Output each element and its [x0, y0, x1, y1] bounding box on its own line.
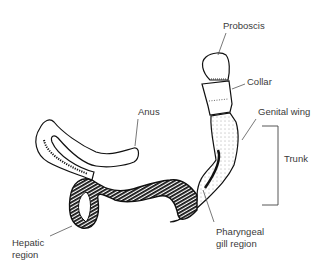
collar-shape — [202, 81, 232, 115]
label-collar: Collar — [247, 76, 272, 87]
anus-leader-line — [135, 119, 138, 146]
label-proboscis: Proboscis — [223, 20, 265, 31]
proboscis-leader-line — [218, 33, 226, 55]
genital-wing-leader-line — [242, 119, 256, 140]
proboscis-shape — [203, 53, 230, 80]
label-trunk: Trunk — [284, 153, 308, 164]
label-hepatic-region-2: region — [12, 249, 38, 260]
label-genital-wing: Genital wing — [258, 106, 310, 117]
label-anus: Anus — [138, 106, 160, 117]
label-pharyngeal-1: Pharyngeal — [216, 226, 264, 237]
acorn-worm-diagram — [0, 0, 335, 271]
hepatic-leader-line — [50, 226, 72, 236]
label-hepatic-region-1: Hepatic — [12, 237, 44, 248]
hind-gut-shape — [36, 120, 139, 180]
trunk-bracket — [262, 126, 278, 205]
collar-leader-line — [232, 84, 245, 89]
label-pharyngeal-2: gill region — [216, 238, 257, 249]
